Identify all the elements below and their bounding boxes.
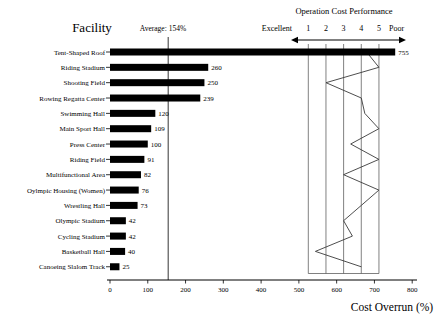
arrowhead-left-icon (291, 37, 298, 43)
bars-layer: 755Tent-Shaped Roof260Riding Stadium250S… (27, 49, 409, 272)
x-axis-tick-label: 0 (108, 286, 112, 294)
bar (110, 110, 155, 117)
facility-label: Riding Stadium (61, 64, 106, 72)
facility-label: Wrestling Hall (64, 202, 105, 210)
bar-value-label: 42 (129, 217, 137, 225)
bar (110, 79, 204, 86)
excellent-label: Excellent (262, 24, 293, 33)
average-label: Average: 154% (140, 24, 186, 33)
bar (110, 202, 138, 209)
facility-label: Tent-Shaped Roof (54, 49, 106, 57)
bar (110, 95, 200, 102)
cost-overrun-chart: 755Tent-Shaped Roof260Riding Stadium250S… (0, 0, 438, 324)
bar-value-label: 120 (158, 110, 169, 118)
facility-label: Olympic Stadium (55, 217, 105, 225)
facility-label: Canoeing Slalom Track (39, 263, 106, 271)
bar-value-label: 82 (144, 171, 152, 179)
x-axis-tick-label: 200 (180, 286, 191, 294)
facility-label: Rowing Regatta Center (39, 95, 105, 103)
arrowhead-right-icon (399, 37, 406, 43)
bar (110, 171, 141, 178)
bar (110, 187, 139, 194)
bar (110, 233, 126, 240)
performance-profile-line-layer (315, 52, 379, 267)
bar-value-label: 239 (203, 95, 214, 103)
bar (110, 263, 119, 270)
bar-value-label: 250 (207, 79, 218, 87)
bar (110, 125, 151, 132)
bar-value-label: 755 (398, 49, 409, 57)
x-axis-title: Cost Overrun (%) (351, 301, 434, 314)
performance-scale-number: 3 (342, 24, 346, 33)
performance-scale-number: 2 (324, 24, 328, 33)
bar (110, 217, 126, 224)
x-axis-tick-label: 600 (331, 286, 342, 294)
bar-value-label: 73 (141, 202, 149, 210)
facility-label: Basketball Hall (62, 248, 105, 256)
bar-value-label: 260 (211, 64, 222, 72)
facility-header: Facility (72, 20, 112, 35)
bar-value-label: 91 (147, 156, 155, 164)
bar-value-label: 76 (142, 187, 150, 195)
performance-title: Operation Cost Performance (295, 6, 392, 16)
facility-label: Oylmpic Housing (Women) (27, 187, 106, 195)
x-axis-tick-label: 400 (256, 286, 267, 294)
facility-label: Swimming Hall (60, 110, 105, 118)
bar-value-label: 109 (154, 125, 165, 133)
performance-scale-number: 1 (306, 24, 310, 33)
x-axis-tick-label: 300 (218, 286, 229, 294)
bar-value-label: 40 (128, 248, 136, 256)
performance-grid-lines (168, 37, 379, 280)
x-axis-tick-label: 500 (294, 286, 305, 294)
poor-label: Poor (389, 24, 404, 33)
facility-label: Multifunctional Area (46, 171, 106, 179)
bar (110, 248, 125, 255)
bar-value-label: 100 (151, 141, 162, 149)
x-axis-layer: 0100200300400500600700800 (107, 280, 418, 294)
performance-profile-line (315, 52, 379, 267)
facility-label: Cycling Stadium (58, 233, 106, 241)
bar-value-label: 42 (129, 233, 137, 241)
bar (110, 156, 144, 163)
x-axis-tick-label: 100 (143, 286, 154, 294)
facility-label: Shooting Field (64, 79, 106, 87)
bar (110, 49, 395, 56)
facility-label: Riding Field (70, 156, 106, 164)
bar-value-label: 25 (122, 263, 130, 271)
bar (110, 64, 208, 71)
facility-label: Press Center (70, 141, 106, 149)
bar (110, 141, 148, 148)
performance-scale-number: 4 (359, 24, 363, 33)
x-axis-tick-label: 700 (369, 286, 380, 294)
facility-label: Main Sport Hall (60, 125, 106, 133)
chart-figure: 755Tent-Shaped Roof260Riding Stadium250S… (0, 0, 438, 324)
x-axis-tick-label: 800 (407, 286, 418, 294)
performance-scale-number: 5 (377, 24, 381, 33)
